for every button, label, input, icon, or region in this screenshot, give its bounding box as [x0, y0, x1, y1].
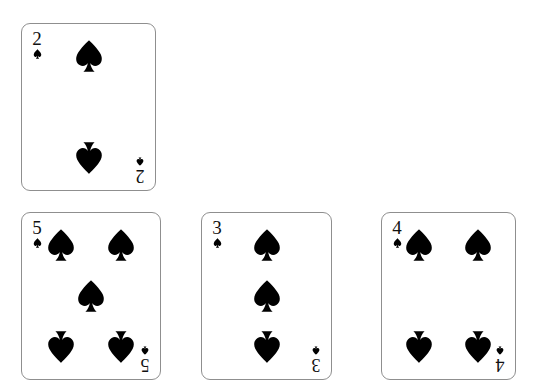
four-of-spades[interactable]: 44	[381, 212, 516, 380]
two-of-spades[interactable]: 22	[21, 23, 156, 191]
spade-pip-icon	[74, 141, 104, 175]
index-rank: 2	[130, 167, 150, 184]
card-index-top-left: 3	[207, 219, 227, 248]
spade-pip-icon	[76, 279, 106, 313]
index-rank: 4	[490, 356, 510, 373]
three-of-spades[interactable]: 33	[201, 212, 332, 380]
card-index-bottom-right: 4	[490, 346, 510, 373]
spade-pip-icon	[463, 330, 493, 364]
spade-pip-icon	[46, 330, 76, 364]
index-rank: 2	[27, 30, 47, 48]
index-suit-icon	[393, 238, 402, 248]
card-table: 22553344	[0, 0, 535, 391]
card-index-top-left: 5	[27, 219, 47, 248]
index-suit-icon	[496, 346, 504, 355]
index-rank: 3	[207, 219, 227, 237]
index-suit-icon	[141, 346, 149, 355]
spade-pip-icon	[404, 228, 434, 262]
index-suit-icon	[33, 238, 42, 248]
card-index-bottom-right: 5	[135, 346, 155, 373]
spade-pip-icon	[46, 228, 76, 262]
spade-pip-icon	[252, 330, 282, 364]
index-suit-icon	[213, 238, 222, 248]
spade-pip-icon	[252, 228, 282, 262]
index-suit-icon	[136, 157, 144, 166]
index-suit-icon	[33, 49, 42, 59]
card-index-top-left: 2	[27, 30, 47, 59]
index-suit-icon	[312, 346, 320, 355]
spade-pip-icon	[463, 228, 493, 262]
index-rank: 3	[306, 356, 326, 373]
five-of-spades[interactable]: 55	[21, 212, 161, 380]
spade-pip-icon	[106, 330, 136, 364]
spade-pip-icon	[106, 228, 136, 262]
spade-pip-icon	[74, 39, 104, 73]
index-rank: 5	[135, 356, 155, 373]
spade-pip-icon	[404, 330, 434, 364]
index-rank: 5	[27, 219, 47, 237]
spade-pip-icon	[252, 279, 282, 313]
card-index-bottom-right: 3	[306, 346, 326, 373]
card-index-bottom-right: 2	[130, 157, 150, 184]
